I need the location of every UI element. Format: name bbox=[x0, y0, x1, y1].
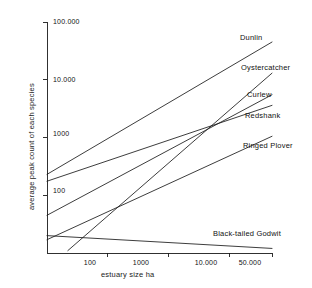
y-tick-label-10000: 10.000 bbox=[53, 76, 76, 83]
x-tick-label-50000: 50.000 bbox=[233, 259, 267, 266]
y-axis-ticks bbox=[43, 22, 47, 195]
series-label-curlew: Curlew bbox=[247, 90, 272, 99]
series-line-ringed-plover bbox=[47, 136, 272, 239]
series-line-redshank bbox=[47, 105, 272, 181]
chart-container: 100.000 10.000 1000 100 100 1000 10.000 … bbox=[0, 0, 312, 288]
series-line-curlew bbox=[47, 95, 272, 216]
x-tick-label-10000: 10.000 bbox=[189, 259, 223, 266]
y-tick-label-1000: 1000 bbox=[53, 130, 69, 137]
series-label-oystercatcher: Oystercatcher bbox=[241, 63, 290, 72]
x-axis-ticks bbox=[108, 253, 272, 257]
x-tick-label-1000: 1000 bbox=[126, 259, 156, 266]
series-label-dunlin: Dunlin bbox=[240, 33, 262, 42]
chart-axes bbox=[43, 22, 272, 257]
series-line-oystercatcher bbox=[68, 73, 272, 250]
series-label-redshank: Redshank bbox=[245, 111, 280, 120]
series-label-black-tailed-godwit: Black-tailed Godwit bbox=[213, 229, 281, 238]
y-tick-label-100: 100 bbox=[53, 187, 65, 194]
chart-series-lines bbox=[47, 42, 272, 251]
x-axis-title: estuary size ha bbox=[101, 270, 154, 279]
y-tick-label-100000: 100.000 bbox=[53, 18, 80, 25]
series-label-ringed-plover: Ringed Plover bbox=[243, 141, 293, 150]
y-axis-title: average peak count of each species bbox=[27, 83, 36, 210]
series-line-dunlin bbox=[47, 42, 272, 174]
x-tick-label-100: 100 bbox=[76, 259, 104, 266]
